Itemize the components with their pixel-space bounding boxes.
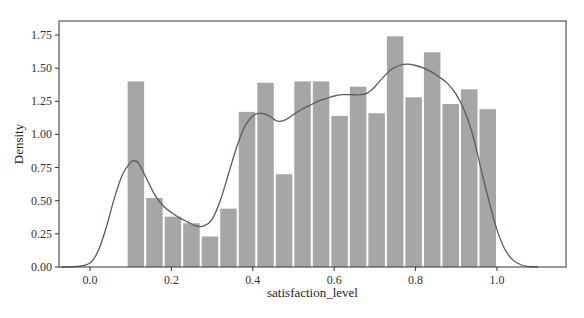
histogram-bar (461, 89, 478, 267)
y-tick-label: 1.50 (31, 61, 52, 75)
histogram-bar (128, 81, 145, 267)
histogram-bar (313, 81, 330, 267)
histogram-bar (276, 174, 293, 267)
x-tick-label: 1.0 (490, 273, 505, 287)
x-axis-label: satisfaction_level (267, 285, 358, 300)
x-axis-ticks: 0.00.20.40.60.81.0 (83, 267, 505, 287)
y-axis-ticks: 0.000.250.500.751.001.251.501.75 (31, 28, 59, 274)
histogram-bars (128, 36, 496, 267)
y-tick-label: 0.75 (31, 161, 52, 175)
histogram-bar (442, 104, 459, 267)
y-tick-label: 1.00 (31, 127, 52, 141)
y-tick-label: 0.50 (31, 194, 52, 208)
histogram-bar (331, 116, 348, 267)
histogram-bar (350, 87, 367, 267)
histogram-bar (405, 97, 422, 267)
x-tick-label: 0.8 (408, 273, 423, 287)
histogram-bar (146, 198, 163, 267)
y-tick-label: 1.75 (31, 28, 52, 42)
histogram-chart: 0.000.250.500.751.001.251.501.75 0.00.20… (0, 0, 584, 318)
histogram-bar (479, 109, 496, 267)
x-tick-label: 0.0 (83, 273, 98, 287)
histogram-bar (368, 113, 385, 267)
y-tick-label: 0.00 (31, 260, 52, 274)
y-tick-label: 0.25 (31, 227, 52, 241)
histogram-bar (257, 83, 274, 267)
x-tick-label: 0.2 (164, 273, 179, 287)
histogram-bar (165, 217, 182, 267)
y-axis-label: Density (11, 123, 26, 164)
histogram-bar (202, 237, 219, 267)
x-tick-label: 0.4 (245, 273, 260, 287)
y-tick-label: 1.25 (31, 94, 52, 108)
histogram-bar (424, 52, 441, 267)
histogram-bar (183, 223, 200, 267)
histogram-bar (220, 209, 237, 267)
